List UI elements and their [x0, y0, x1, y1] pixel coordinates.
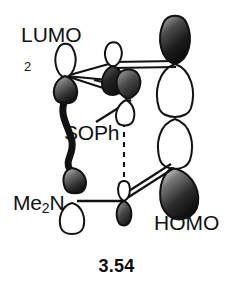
homo-top-lobe-filled	[160, 16, 190, 64]
center-bottom-bottom-lobe-filled	[117, 201, 132, 226]
dimethylamino-label: Me2N	[13, 192, 64, 215]
amine-suffix: N	[49, 191, 64, 214]
amine-prefix: Me	[13, 191, 42, 214]
equivalents-label: 2	[24, 60, 31, 73]
double-bond-top-line-a	[113, 61, 176, 62]
center-top-lobe-empty	[105, 42, 122, 67]
center-bottom-top-lobe-empty	[118, 181, 130, 201]
homo-label: HOMO	[154, 212, 219, 233]
lumo-label: LUMO	[21, 24, 82, 45]
figure-caption: 3.54	[0, 256, 233, 277]
double-bond-top-line-b	[113, 67, 176, 68]
homo-lower-middle-lobe-empty	[158, 119, 192, 169]
soph-substituent-label: SOPh	[64, 122, 119, 143]
lumo-left-top-lobe-empty	[55, 44, 75, 78]
